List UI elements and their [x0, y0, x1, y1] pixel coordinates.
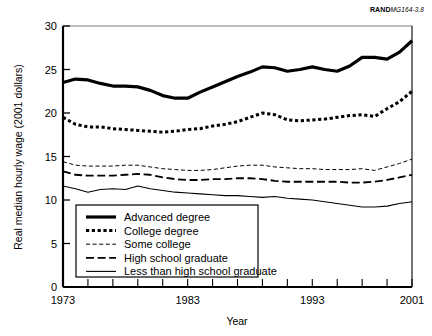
legend-label: College degree	[124, 225, 199, 237]
figure-container: RANDMG164-3.8 051015202530 1973198319932…	[0, 0, 432, 336]
chart-legend: Advanced degreeCollege degreeSome colleg…	[76, 205, 277, 277]
x-axis-title: Year	[226, 315, 248, 327]
x-tick-label: 2001	[400, 294, 424, 306]
line-chart: 051015202530 1973198319932001 Year Real …	[0, 0, 432, 336]
legend-label: Advanced degree	[124, 211, 210, 223]
x-axis-ticks	[63, 279, 412, 287]
data-series-layer	[63, 41, 412, 207]
x-tick-label: 1983	[175, 294, 199, 306]
x-tick-label: 1973	[51, 294, 75, 306]
y-tick-label: 30	[45, 20, 57, 32]
y-tick-label: 20	[45, 107, 57, 119]
source-brand: RAND	[370, 6, 391, 13]
y-tick-label: 0	[51, 281, 57, 293]
y-axis-title: Real median hourly wage (2001 dollars)	[12, 64, 24, 250]
source-identifier: RANDMG164-3.8	[370, 6, 424, 13]
series-line	[63, 186, 412, 207]
y-axis-tick-labels: 051015202530	[45, 20, 57, 293]
legend-label: High school graduate	[124, 252, 228, 264]
series-line	[63, 41, 412, 98]
source-number: MG164-3.8	[391, 6, 424, 13]
x-tick-label: 1993	[300, 294, 324, 306]
y-tick-label: 10	[45, 194, 57, 206]
series-line	[63, 171, 412, 182]
y-tick-label: 5	[51, 238, 57, 250]
x-axis-tick-labels: 1973198319932001	[51, 294, 424, 306]
y-tick-label: 25	[45, 64, 57, 76]
legend-label: Some college	[124, 238, 191, 250]
y-tick-label: 15	[45, 151, 57, 163]
series-line	[63, 159, 412, 170]
series-line	[63, 91, 412, 132]
legend-label: Less than high school graduate	[124, 265, 277, 277]
